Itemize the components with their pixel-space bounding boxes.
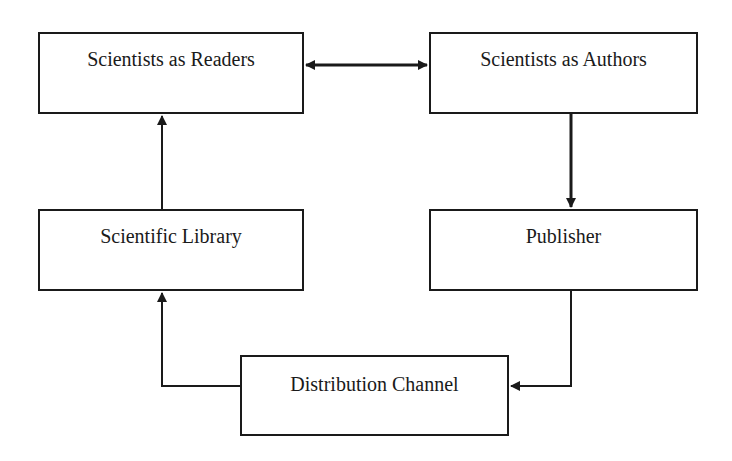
node-label: Scientists as Readers [87, 48, 255, 70]
node-label: Publisher [526, 225, 602, 247]
node-label: Scientific Library [100, 225, 242, 247]
node-distribution-channel: Distribution Channel [240, 355, 509, 436]
node-scientists-as-readers: Scientists as Readers [38, 32, 304, 114]
edge-publisher-distribution [511, 291, 571, 386]
node-scientific-library: Scientific Library [38, 209, 304, 291]
node-label: Distribution Channel [290, 373, 458, 395]
node-label: Scientists as Authors [480, 48, 647, 70]
node-publisher: Publisher [429, 209, 698, 291]
edge-distribution-library [162, 293, 240, 386]
node-scientists-as-authors: Scientists as Authors [429, 32, 698, 114]
